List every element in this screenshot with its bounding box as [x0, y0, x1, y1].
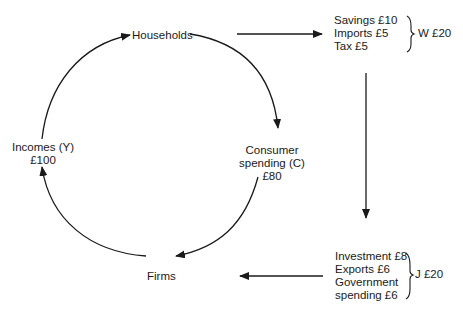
- consumer-spending-value: £80: [232, 170, 312, 183]
- injection-item: Investment £8: [335, 250, 407, 263]
- firms-node: Firms: [147, 270, 176, 283]
- withdrawals-total: W £20: [418, 27, 451, 40]
- injection-item: Exports £6: [335, 263, 407, 276]
- consumer-spending-node: Consumer spending (C) £80: [232, 144, 312, 183]
- incomes-line1: Incomes (Y): [10, 141, 76, 154]
- households-node: Households: [132, 29, 193, 42]
- withdrawal-item: Tax £5: [334, 40, 397, 53]
- arrow-households-to-consumer: [190, 34, 278, 128]
- injection-item: spending £6: [335, 289, 407, 302]
- arrow-consumer-to-firms: [176, 177, 258, 256]
- withdrawal-item: Savings £10: [334, 14, 397, 27]
- injections-total: J £20: [415, 268, 443, 281]
- withdrawals-brace: [407, 16, 414, 52]
- incomes-value: £100: [10, 154, 76, 167]
- withdrawal-item: Imports £5: [334, 27, 397, 40]
- injection-item: Government: [335, 276, 407, 289]
- arrow-firms-to-incomes: [42, 167, 146, 256]
- withdrawals-list: Savings £10 Imports £5 Tax £5: [334, 14, 397, 53]
- injections-list: Investment £8 Exports £6 Government spen…: [335, 250, 407, 302]
- arrow-incomes-to-households: [42, 35, 130, 139]
- incomes-node: Incomes (Y) £100: [10, 141, 76, 167]
- consumer-spending-line1: Consumer: [232, 144, 312, 157]
- consumer-spending-line2: spending (C): [232, 157, 312, 170]
